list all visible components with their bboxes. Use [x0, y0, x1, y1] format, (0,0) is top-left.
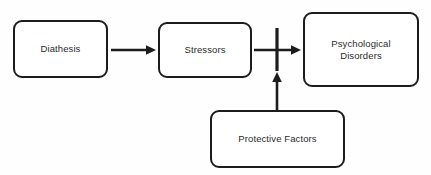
edge-diathesis-to-stressors	[111, 45, 156, 55]
edge-protective-to-link	[272, 72, 282, 110]
edge-stressors-to-disorders	[254, 45, 301, 55]
arrowhead-right-to-disorders	[291, 45, 301, 55]
node-diathesis[interactable]: Diathesis	[13, 20, 108, 78]
node-stressors[interactable]: Stressors	[158, 22, 252, 78]
diathesis-stress-diagram: Diathesis Stressors Psychological Disord…	[0, 0, 431, 175]
arrowhead-right-to-stressors	[146, 45, 156, 55]
arrowhead-up-to-bar	[272, 72, 282, 82]
node-psychological-disorders[interactable]: Psychological Disorders	[303, 12, 419, 87]
node-protective-factors[interactable]: Protective Factors	[210, 110, 345, 168]
